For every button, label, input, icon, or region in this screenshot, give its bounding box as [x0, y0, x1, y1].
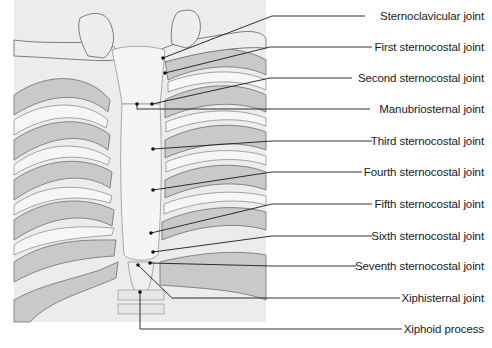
label-sternoclavicular-joint: Sternoclavicular joint [380, 9, 484, 23]
sternal-body [121, 104, 162, 260]
label-first-sternocostal-joint: First sternocostal joint [375, 40, 484, 54]
label-sixth-sternocostal-joint: Sixth sternocostal joint [371, 229, 484, 243]
label-xiphisternal-joint: Xiphisternal joint [401, 291, 484, 305]
label-second-sternocostal-joint: Second sternocostal joint [358, 71, 484, 85]
label-seventh-sternocostal-joint: Seventh sternocostal joint [355, 259, 484, 273]
label-fourth-sternocostal-joint: Fourth sternocostal joint [364, 165, 484, 179]
label-xiphoid-process: Xiphoid process [404, 322, 484, 336]
label-manubriosternal-joint: Manubriosternal joint [379, 102, 484, 116]
label-fifth-sternocostal-joint: Fifth sternocostal joint [375, 197, 484, 211]
label-third-sternocostal-joint: Third sternocostal joint [371, 134, 484, 148]
